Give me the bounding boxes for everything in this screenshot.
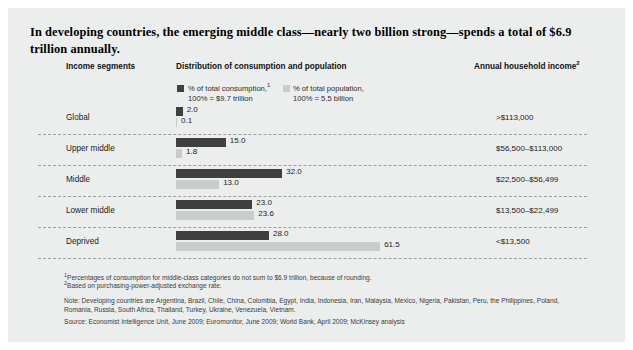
segment-label: Deprived: [66, 237, 99, 246]
bar-value-consumption: 23.0: [256, 198, 272, 207]
legend-item-consumption: % of total consumption,1 100% = $9.7 tri…: [188, 84, 293, 103]
bar-group: 23.0 23.6: [176, 197, 476, 228]
table-row: Global 2.0 0.1 >$113,000: [30, 104, 605, 135]
column-header-annual-income-text: Annual household income: [474, 62, 576, 71]
bar-population: [176, 180, 219, 189]
bar-value-consumption: 2.0: [187, 105, 198, 114]
annual-household-income-value: $22,500–$56,499: [496, 175, 558, 184]
table-row: Upper middle 15.0 1.8 $56,500–$113,000: [30, 135, 605, 166]
bar-value-consumption: 15.0: [230, 136, 246, 145]
table-row: Lower middle 23.0 23.6 $13,500–$22,499: [30, 197, 605, 228]
column-header-distribution: Distribution of consumption and populati…: [176, 62, 446, 73]
annual-household-income-value: $56,500–$113,000: [496, 144, 562, 153]
bar-population: [176, 118, 177, 127]
bar-consumption: [176, 200, 252, 209]
footnote-2: 2Based on purchasing-power-adjusted exch…: [64, 282, 584, 291]
footnote-marker-1: 1: [267, 82, 270, 88]
segment-label: Lower middle: [66, 206, 115, 215]
bar-value-consumption: 28.0: [273, 229, 289, 238]
source-text: Source: Economist Intelligence Unit, Jun…: [64, 318, 584, 327]
footnote-1-text: Percentages of consumption for middle-cl…: [67, 274, 372, 281]
note-text: Note: Developing countries are Argentina…: [64, 297, 574, 314]
bar-value-population: 23.6: [258, 209, 274, 218]
footnote-2-text: Based on purchasing-power-adjusted excha…: [67, 282, 222, 289]
bar-consumption: [176, 169, 282, 178]
page-title: In developing countries, the emerging mi…: [30, 24, 605, 58]
legend-consumption-line2: 100% = $9.7 trillion: [188, 94, 293, 104]
bar-population: [176, 149, 182, 158]
bar-value-population: 61.5: [384, 240, 400, 249]
bar-value-population: 0.1: [181, 116, 192, 125]
legend-swatch-population: [283, 85, 290, 92]
segment-label: Middle: [66, 175, 90, 184]
column-header-annual-household-income: Annual household income2: [474, 62, 604, 73]
bar-group: 2.0 0.1: [176, 104, 476, 135]
table-row: Deprived 28.0 61.5 <$13,500: [30, 228, 605, 259]
bar-value-population: 13.0: [223, 178, 239, 187]
bar-consumption: [176, 138, 226, 147]
legend-population-line1: % of total population,: [293, 84, 364, 93]
footnote-marker-2: 2: [576, 60, 579, 66]
bar-group: 32.0 13.0: [176, 166, 476, 197]
bar-value-consumption: 32.0: [286, 167, 302, 176]
segment-label: Upper middle: [66, 144, 115, 153]
segment-label: Global: [66, 113, 90, 122]
bar-group: 15.0 1.8: [176, 135, 476, 166]
bar-value-population: 1.8: [186, 147, 197, 156]
bar-group: 28.0 61.5: [176, 228, 476, 259]
legend-population-line2: 100% = 5.5 billion: [293, 94, 403, 104]
exhibit-panel: In developing countries, the emerging mi…: [8, 8, 625, 342]
annual-household-income-value: <$13,500: [496, 237, 530, 246]
bar-population: [176, 242, 380, 251]
legend-swatch-consumption: [177, 85, 184, 92]
legend-consumption-line1: % of total consumption,: [188, 84, 267, 93]
bar-population: [176, 211, 254, 220]
legend-item-population: % of total population, 100% = 5.5 billio…: [293, 84, 403, 103]
bar-consumption: [176, 231, 269, 240]
table-row: Middle 32.0 13.0 $22,500–$56,499: [30, 166, 605, 197]
column-header-income-segments: Income segments: [66, 62, 156, 73]
annual-household-income-value: >$113,000: [496, 113, 533, 122]
annual-household-income-value: $13,500–$22,499: [496, 206, 558, 215]
bar-consumption: [176, 107, 183, 116]
